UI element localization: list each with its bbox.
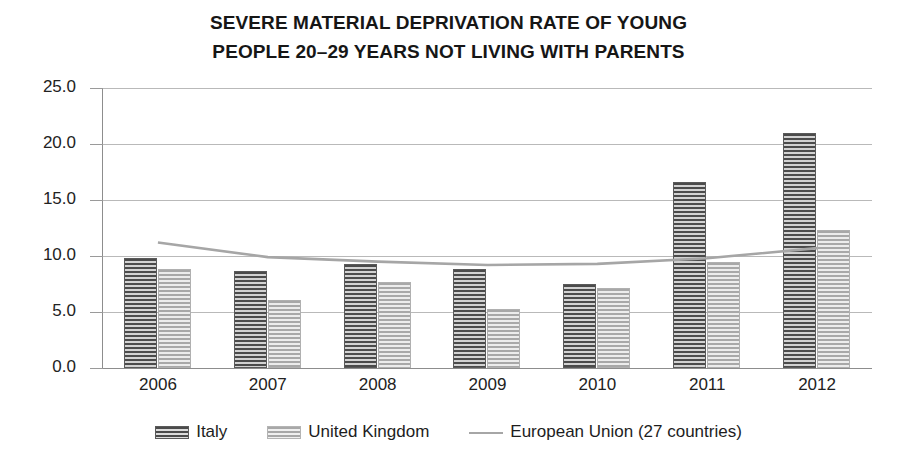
y-axis-tick-label: 25.0 [16, 77, 76, 97]
y-axis-tick-label: 5.0 [16, 301, 76, 321]
chart-title: SEVERE MATERIAL DEPRIVATION RATE OF YOUN… [0, 8, 897, 66]
x-axis-tick-label: 2011 [652, 375, 762, 395]
chart-title-line-2: PEOPLE 20–29 YEARS NOT LIVING WITH PAREN… [0, 37, 897, 66]
y-axis-tick-label: 10.0 [16, 245, 76, 265]
chart-container: SEVERE MATERIAL DEPRIVATION RATE OF YOUN… [0, 0, 897, 459]
plot-area [103, 88, 872, 368]
eu-line-path [158, 243, 817, 265]
legend-item-european-union[interactable]: European Union (27 countries) [469, 422, 742, 442]
gridline [103, 368, 872, 369]
x-axis-tick-label: 2006 [103, 375, 213, 395]
y-axis-tick [90, 312, 103, 313]
legend-label-italy: Italy [196, 422, 227, 442]
legend-item-united-kingdom[interactable]: United Kingdom [267, 422, 429, 442]
eu-line-series [103, 88, 872, 368]
y-axis-tick [90, 144, 103, 145]
y-axis-tick-label: 0.0 [16, 357, 76, 377]
x-axis-labels: 2006200720082009201020112012 [103, 375, 872, 403]
y-axis-tick [90, 256, 103, 257]
legend-item-italy[interactable]: Italy [155, 422, 227, 442]
eu-line-swatch [469, 426, 503, 439]
uk-striped-swatch [267, 426, 301, 439]
legend-label-united-kingdom: United Kingdom [308, 422, 429, 442]
x-axis-tick-label: 2012 [762, 375, 872, 395]
x-axis-tick-label: 2009 [433, 375, 543, 395]
y-axis-tick [90, 200, 103, 201]
italy-striped-swatch [155, 426, 189, 439]
chart-title-line-1: SEVERE MATERIAL DEPRIVATION RATE OF YOUN… [210, 12, 687, 33]
y-axis-tick [90, 88, 103, 89]
x-axis-tick-label: 2008 [323, 375, 433, 395]
chart-legend: Italy United Kingdom European Union (27 … [0, 417, 897, 447]
y-axis-tick-label: 20.0 [16, 133, 76, 153]
x-axis-tick-label: 2010 [542, 375, 652, 395]
legend-label-european-union: European Union (27 countries) [510, 422, 742, 442]
x-axis-tick-label: 2007 [213, 375, 323, 395]
y-axis-tick [90, 368, 103, 369]
y-axis-tick-label: 15.0 [16, 189, 76, 209]
